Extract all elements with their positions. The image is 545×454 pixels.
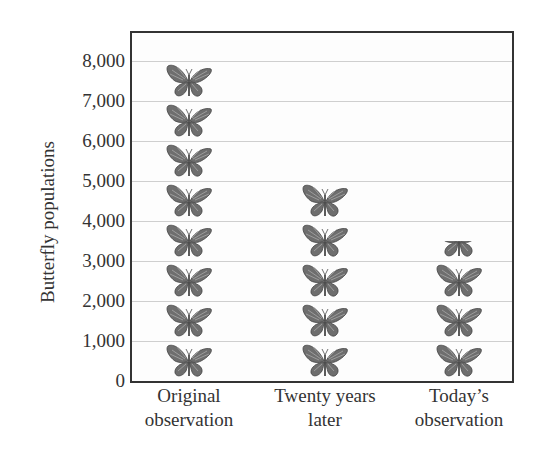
x-category-label: Twenty yearslater [255,384,395,432]
butterfly-icon [429,261,489,301]
x-category-label: Today’sobservation [389,384,529,432]
butterfly-icon [429,341,489,381]
y-tick-label: 6,000 [82,131,125,151]
pictograph-column [429,33,489,381]
butterfly-icon [295,261,355,301]
butterfly-icon [295,181,355,221]
y-tick-label: 1,000 [82,331,125,351]
butterfly-icon [429,301,489,341]
butterfly-icon [295,341,355,381]
butterfly-icon [159,181,219,221]
x-category-label-line: observation [119,408,259,432]
butterfly-icon [159,301,219,341]
pictograph-column [159,33,219,381]
butterfly-pictograph-chart: Butterfly populations 01,0002,0003,0004,… [0,0,545,454]
y-tick-label: 5,000 [82,171,125,191]
x-category-label-line: later [255,408,395,432]
pictograph-column [295,33,355,381]
butterfly-icon [429,241,489,261]
plot-area [130,31,514,383]
y-tick-label: 4,000 [82,211,125,231]
y-tick-label: 3,000 [82,251,125,271]
x-category-label-line: observation [389,408,529,432]
butterfly-icon [159,221,219,261]
x-category-label-line: Twenty years [255,384,395,408]
butterfly-icon [159,341,219,381]
butterfly-icon [159,61,219,101]
butterfly-icon [159,261,219,301]
x-category-label-line: Original [119,384,259,408]
butterfly-icon [159,141,219,181]
y-tick-label: 7,000 [82,91,125,111]
butterfly-icon [295,221,355,261]
x-category-label: Originalobservation [119,384,259,432]
y-tick-label: 8,000 [82,51,125,71]
y-axis-label: Butterfly populations [37,122,61,322]
y-tick-label: 2,000 [82,291,125,311]
butterfly-icon [295,301,355,341]
butterfly-icon [159,101,219,141]
x-category-label-line: Today’s [389,384,529,408]
